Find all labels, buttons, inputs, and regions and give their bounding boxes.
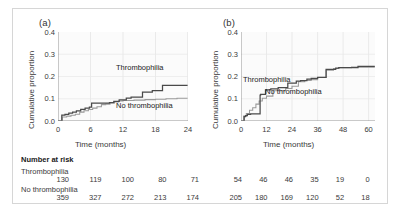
panel-b-label-thrombophilia: Thrombophilia [243, 75, 291, 84]
panel-a-label: (a) [39, 17, 51, 28]
risk-a-thr-3: 80 [147, 175, 167, 184]
panel-a: (a) Cumulative proportion [13, 9, 201, 157]
risk-b-thr-4: 19 [324, 175, 344, 184]
panel-b-label: (b) [223, 17, 235, 28]
risk-a-thr-2: 100 [114, 175, 134, 184]
figure-container: (a) Cumulative proportion [12, 8, 388, 204]
panel-a-xtick-1: 6 [80, 125, 102, 134]
panel-a-label-no-thrombophilia: No thrombophilia [116, 101, 173, 110]
risk-b-noth-2: 169 [273, 193, 293, 202]
risk-a-thr-4: 71 [179, 175, 199, 184]
risk-a-thr-1: 119 [82, 175, 102, 184]
panel-a-x-axis-title: Time (months) [75, 140, 126, 149]
panel-b-label-no-thrombophilia: No thrombophilia [265, 87, 322, 96]
panel-a-label-thrombophilia: Thrombophilia [116, 63, 164, 72]
risk-b-noth-5: 18 [350, 193, 370, 202]
panel-b-ytick-0: 0.4 [216, 28, 238, 37]
panel-b: (b) Cumulative proportion [201, 9, 389, 157]
panel-b-ytick-3: 0.1 [216, 94, 238, 103]
panel-b-ytick-2: 0.2 [216, 72, 238, 81]
risk-a-noth-1: 327 [82, 193, 102, 202]
panel-b-xtick-0: 0 [230, 125, 252, 134]
risk-b-noth-3: 120 [299, 193, 319, 202]
risk-b-thr-2: 46 [273, 175, 293, 184]
panel-a-ytick-0: 0.4 [33, 28, 55, 37]
panel-a-xtick-2: 12 [112, 125, 134, 134]
panel-b-xtick-3: 36 [307, 125, 329, 134]
panel-b-ytick-1: 0.3 [216, 50, 238, 59]
number-at-risk-table: Number at risk Thrombophilia No thrombop… [13, 155, 389, 205]
risk-b-thr-5: 0 [350, 175, 370, 184]
risk-b-noth-1: 180 [248, 193, 268, 202]
panel-a-xtick-0: 0 [47, 125, 69, 134]
risk-a-noth-0: 359 [49, 193, 69, 202]
panel-b-xtick-5: 60 [358, 125, 380, 134]
panel-a-xtick-3: 18 [145, 125, 167, 134]
risk-table-title: Number at risk [21, 155, 74, 164]
risk-a-noth-3: 213 [147, 193, 167, 202]
risk-a-noth-2: 272 [114, 193, 134, 202]
risk-b-thr-0: 54 [222, 175, 242, 184]
risk-b-noth-4: 52 [324, 193, 344, 202]
panel-b-x-axis-title: Time (months) [263, 140, 314, 149]
panel-a-ytick-2: 0.2 [33, 72, 55, 81]
panel-b-xtick-2: 24 [281, 125, 303, 134]
panel-a-ytick-1: 0.3 [33, 50, 55, 59]
risk-a-noth-4: 174 [179, 193, 199, 202]
panel-a-ytick-3: 0.1 [33, 94, 55, 103]
panel-b-xtick-1: 12 [256, 125, 278, 134]
risk-b-thr-1: 46 [248, 175, 268, 184]
risk-a-thr-0: 130 [49, 175, 69, 184]
risk-b-noth-0: 205 [222, 193, 242, 202]
risk-b-thr-3: 35 [299, 175, 319, 184]
panel-b-xtick-4: 48 [332, 125, 354, 134]
panel-a-xtick-4: 24 [177, 125, 199, 134]
